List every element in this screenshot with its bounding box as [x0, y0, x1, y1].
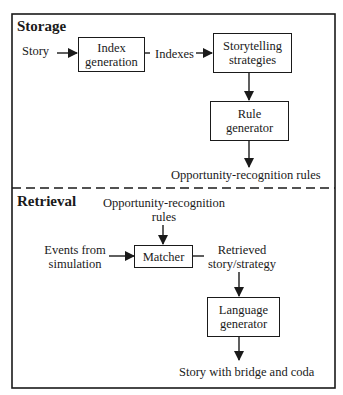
- retrieval-output-label: Story with bridge and coda: [179, 365, 314, 379]
- story-input-label: Story: [22, 44, 49, 58]
- retrieved-label: Retrieved story/strategy: [205, 243, 279, 271]
- rule-box-line1: Rule: [226, 107, 273, 121]
- language-box-line2: generator: [219, 317, 268, 331]
- events-label-line2: simulation: [40, 257, 110, 271]
- rules-label-line2: rules: [99, 210, 229, 224]
- language-generator-box: Languagegenerator: [207, 297, 280, 337]
- index-box-line1: Index: [85, 41, 138, 55]
- storage-heading: Storage: [17, 19, 66, 33]
- retrieval-heading: Retrieval: [17, 194, 76, 208]
- retrieved-label-line1: Retrieved: [205, 243, 279, 257]
- index-box-line2: generation: [85, 55, 138, 69]
- rule-generator-box: Rulegenerator: [210, 101, 289, 141]
- strategies-box-line2: strategies: [223, 53, 282, 67]
- retrieved-label-line2: story/strategy: [205, 257, 279, 271]
- rules-input-label: Opportunity-recognition rules: [99, 196, 229, 224]
- rule-box-line2: generator: [226, 121, 273, 135]
- indexes-label: Indexes: [155, 47, 194, 61]
- language-box-line1: Language: [219, 303, 268, 317]
- strategies-box-line1: Storytelling: [223, 39, 282, 53]
- matcher-box: Matcher: [134, 245, 193, 268]
- events-label-line1: Events from: [40, 243, 110, 257]
- rules-label-line1: Opportunity-recognition: [99, 196, 229, 210]
- events-input-label: Events from simulation: [40, 243, 110, 271]
- index-generation-box: Indexgeneration: [78, 37, 145, 72]
- storage-output-label: Opportunity-recognition rules: [171, 168, 321, 182]
- storytelling-strategies-box: Storytellingstrategies: [213, 33, 292, 73]
